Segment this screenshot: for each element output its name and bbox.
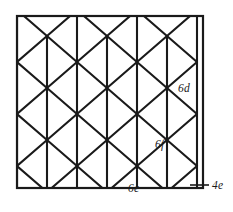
site-label-6d: 6d [178,82,190,94]
site-label-6e: 6e [128,182,139,194]
figure-container: 6d 6f 6e 4e [0,0,233,212]
site-label-4e: 4e [212,179,223,191]
rhombille-tiling-figure: 6d 6f 6e 4e [0,0,233,212]
site-label-6f: 6f [155,138,166,151]
